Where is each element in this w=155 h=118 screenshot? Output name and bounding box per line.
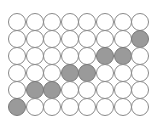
filled-circle xyxy=(78,64,96,82)
empty-circle xyxy=(26,64,44,82)
empty-circle xyxy=(61,47,79,65)
empty-circle xyxy=(78,98,96,116)
empty-circle xyxy=(43,47,61,65)
empty-circle xyxy=(8,13,26,31)
empty-circle xyxy=(43,30,61,48)
empty-circle xyxy=(114,81,132,99)
empty-circle xyxy=(61,81,79,99)
filled-circle xyxy=(8,98,26,116)
empty-circle xyxy=(8,47,26,65)
empty-circle xyxy=(26,30,44,48)
empty-circle xyxy=(78,13,96,31)
empty-circle xyxy=(43,98,61,116)
empty-circle xyxy=(78,47,96,65)
empty-circle xyxy=(26,13,44,31)
empty-circle xyxy=(96,13,114,31)
empty-circle xyxy=(96,64,114,82)
empty-circle xyxy=(8,81,26,99)
empty-circle xyxy=(8,64,26,82)
empty-circle xyxy=(114,13,132,31)
empty-circle xyxy=(131,47,149,65)
empty-circle xyxy=(114,98,132,116)
filled-circle xyxy=(26,81,44,99)
filled-circle xyxy=(114,47,132,65)
empty-circle xyxy=(61,98,79,116)
empty-circle xyxy=(131,81,149,99)
empty-circle xyxy=(78,81,96,99)
empty-circle xyxy=(43,64,61,82)
empty-circle xyxy=(26,98,44,116)
empty-circle xyxy=(114,30,132,48)
empty-circle xyxy=(8,30,26,48)
filled-circle xyxy=(96,47,114,65)
filled-circle xyxy=(43,81,61,99)
circle-grid xyxy=(8,13,149,115)
empty-circle xyxy=(96,81,114,99)
filled-circle xyxy=(131,30,149,48)
empty-circle xyxy=(78,30,96,48)
empty-circle xyxy=(96,30,114,48)
empty-circle xyxy=(43,13,61,31)
empty-circle xyxy=(61,13,79,31)
empty-circle xyxy=(131,64,149,82)
filled-circle xyxy=(61,64,79,82)
empty-circle xyxy=(131,98,149,116)
empty-circle xyxy=(96,98,114,116)
empty-circle xyxy=(61,30,79,48)
empty-circle xyxy=(131,13,149,31)
empty-circle xyxy=(114,64,132,82)
empty-circle xyxy=(26,47,44,65)
